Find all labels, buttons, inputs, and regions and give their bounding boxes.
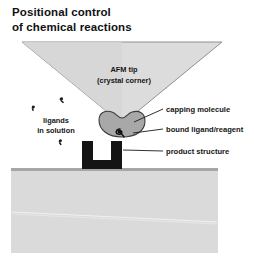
ligands-label-line-2: in solution <box>37 126 75 135</box>
positional-control-diagram: Positional control of chemical reactions… <box>0 0 254 257</box>
callout-label-product-structure: product structure <box>166 147 229 156</box>
figure-title-line-1: Positional control <box>12 6 111 18</box>
bound-ligand-dot <box>118 130 122 134</box>
substrate-body <box>11 168 218 253</box>
ligands-label-line-1: ligands <box>43 116 69 125</box>
callout-label-bound-ligand: bound ligand/reagent <box>166 125 244 134</box>
afm-tip-label-line-2: (crystal corner) <box>97 76 151 85</box>
afm-tip-label-line-1: AFM tip <box>110 65 138 74</box>
figure-canvas: Positional control of chemical reactions… <box>0 0 254 257</box>
callout-label-capping-molecule: capping molecule <box>166 105 230 114</box>
figure-title-line-2: of chemical reactions <box>12 21 132 33</box>
substrate-surface <box>11 168 218 253</box>
